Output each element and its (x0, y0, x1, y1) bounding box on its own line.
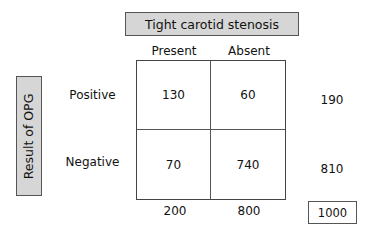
column-total-absent: 800 (224, 204, 274, 218)
row-total-positive: 190 (307, 93, 357, 107)
cell-positive-present: 130 (137, 61, 211, 130)
grand-total-box: 1000 (308, 201, 357, 224)
row-total-negative: 810 (307, 162, 357, 176)
column-total-present: 200 (150, 204, 200, 218)
cell-positive-absent: 60 (211, 61, 285, 130)
column-header-box: Tight carotid stenosis (125, 12, 299, 36)
row-header-box: Result of OPG (16, 76, 42, 196)
contingency-grid: 130 60 70 740 (136, 60, 286, 200)
row-header-label: Result of OPG (22, 93, 37, 179)
row-label-positive: Positive (55, 88, 130, 102)
grand-total-value: 1000 (318, 206, 347, 220)
column-label-absent: Absent (214, 44, 284, 58)
column-label-present: Present (139, 44, 209, 58)
cell-negative-present: 70 (137, 130, 211, 199)
row-label-negative: Negative (55, 155, 130, 169)
column-header-label: Tight carotid stenosis (145, 17, 279, 32)
cell-negative-absent: 740 (211, 130, 285, 199)
